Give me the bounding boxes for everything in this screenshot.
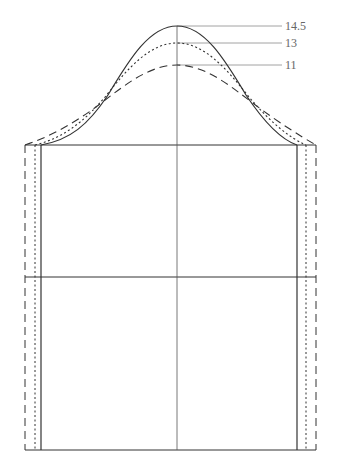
label-14-5: 14.5: [285, 19, 306, 33]
seams-dashed: [25, 145, 316, 450]
sleeve-pattern-diagram: 14.5 13 11: [0, 0, 338, 474]
pattern-frame: [25, 26, 316, 450]
cap-curve-13-dotted: [35, 43, 306, 145]
label-11: 11: [285, 58, 297, 72]
seams-dotted: [35, 145, 306, 450]
label-13: 13: [285, 36, 297, 50]
cap-curve-11-dashed: [25, 65, 316, 145]
